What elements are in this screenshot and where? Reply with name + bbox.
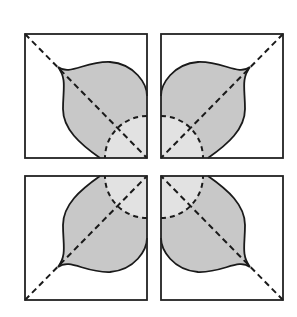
panel-bottom-left <box>25 176 147 300</box>
panel-top-left <box>25 34 147 158</box>
panel-top-right <box>161 34 283 158</box>
four-panel-leaf-diagram <box>0 0 297 317</box>
panel-bottom-right <box>161 176 283 300</box>
